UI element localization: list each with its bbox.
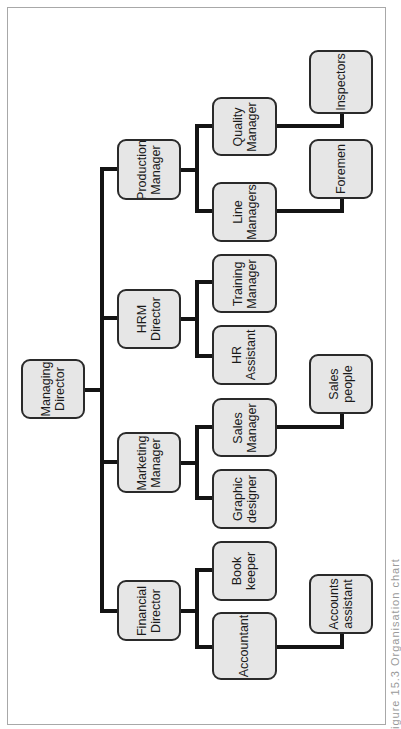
node-sales-people: Sales people — [309, 354, 373, 414]
node-label: Accountant — [238, 615, 252, 678]
node-line-managers: Line Managers — [212, 182, 277, 242]
connector-qm-insp-h — [276, 124, 344, 128]
node-label: Book keeper — [230, 552, 258, 590]
connector-to-bk — [195, 568, 213, 572]
node-label: Inspectors — [334, 53, 348, 111]
connector-prod-branch — [195, 124, 199, 213]
connector-acc-aa-v — [340, 632, 344, 649]
node-label: Line Managers — [231, 184, 259, 240]
connector-sm-sp-h — [276, 425, 344, 429]
connector-fin-branch — [195, 568, 199, 649]
node-marketing-manager: Marketing Manager — [117, 432, 181, 493]
node-label: Sales Manager — [231, 403, 259, 452]
connector-to-lm — [195, 209, 213, 213]
node-label: Financial Director — [135, 585, 163, 635]
node-label: Marketing Manager — [135, 435, 163, 490]
connector-trunk-mkt — [100, 460, 118, 464]
connector-sm-sp-v — [340, 412, 344, 429]
node-label: Production Manager — [135, 140, 163, 200]
node-label: HRM Director — [135, 297, 163, 341]
connector-trunk-prod — [100, 167, 118, 171]
connector-to-tm — [195, 280, 213, 284]
node-label: Managing Director — [39, 362, 67, 417]
node-label: HR Assistant — [231, 330, 259, 381]
node-sales-manager: Sales Manager — [212, 398, 277, 457]
connector-to-acc — [195, 645, 213, 649]
node-quality-manager: Quality Manager — [212, 97, 277, 156]
connector-to-hra — [195, 354, 213, 358]
node-label: Accounts assistant — [327, 578, 355, 629]
node-training-manager: Training Manager — [212, 254, 277, 313]
node-graphic-designer: Graphic designer — [212, 469, 277, 529]
node-book-keeper: Book keeper — [212, 541, 277, 601]
connector-mkt-branch — [195, 425, 199, 500]
node-foremen: Foremen — [309, 139, 373, 199]
node-hr-assistant: HR Assistant — [212, 325, 277, 385]
connector-qm-insp-v — [340, 112, 344, 128]
figure-caption: igure 15.3 Organisation chart — [389, 558, 401, 729]
connector-to-sm — [195, 425, 213, 429]
node-accountant: Accountant — [212, 612, 277, 680]
node-label: Quality Manager — [231, 102, 259, 151]
connector-lm-fore-h — [276, 209, 344, 213]
node-production-manager: Production Manager — [117, 139, 181, 200]
connector-acc-aa-h — [276, 645, 344, 649]
node-inspectors: Inspectors — [309, 50, 373, 114]
connector-trunk-hrm — [100, 316, 118, 320]
node-label: Sales people — [327, 365, 355, 403]
node-managing-director: Managing Director — [21, 359, 85, 419]
connector-hrm-branch — [195, 280, 199, 358]
node-label: Training Manager — [231, 259, 259, 308]
node-financial-director: Financial Director — [117, 580, 181, 641]
connector-lm-fore-v — [340, 197, 344, 213]
node-accounts-assistant: Accounts assistant — [309, 574, 373, 634]
node-label: Foremen — [334, 144, 348, 194]
connector-to-qm — [195, 124, 213, 128]
connector-md-trunk — [84, 388, 102, 392]
node-label: Graphic designer — [230, 475, 258, 523]
connector-to-gd — [195, 496, 213, 500]
node-hrm-director: HRM Director — [117, 289, 181, 349]
connector-trunk-fin — [100, 609, 118, 613]
